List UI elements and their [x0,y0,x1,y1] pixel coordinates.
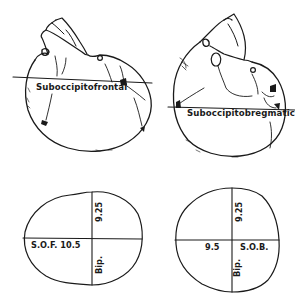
sof-axis [23,238,142,239]
suboccipitofrontal-label: Suboccipitofrontal [36,83,127,92]
sof-bip-label: Bip. [95,256,103,274]
skull-suboccipitobregmatic [168,14,295,157]
sof-vertical-value: 9.25 [95,202,103,222]
sof-horizontal-label: S.O.F. 10.5 [31,241,80,249]
sob-bip-label: Bip. [233,259,241,277]
section-sof [23,192,142,285]
section-sob [175,188,279,292]
sob-horizontal-value: 9.5 [205,243,220,251]
sob-horizontal-label: S.O.B. [240,243,268,251]
suboccipitobregmatic-label: Suboccipitobregmatic [187,109,295,118]
sob-vertical-value: 9.25 [235,202,243,222]
diagram-canvas [0,0,295,303]
